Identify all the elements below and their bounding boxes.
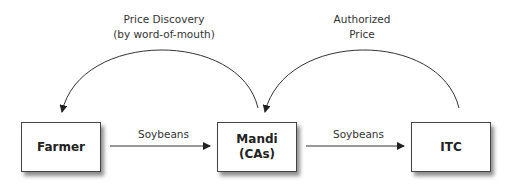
node-itc-label: ITC [440, 140, 461, 155]
edge-label-price-discovery: Price Discovery (by word-of-mouth) [104, 12, 224, 42]
edge-label-farmer-to-mandi: Soybeans [138, 127, 189, 142]
authorized-price-line1: Authorized [322, 12, 402, 27]
node-itc: ITC [411, 122, 491, 172]
node-farmer-label: Farmer [37, 140, 85, 155]
node-mandi: Mandi (CAs) [217, 122, 297, 172]
flow-diagram: Farmer Mandi (CAs) ITC Soybeans Soybeans… [0, 0, 519, 192]
edge-label-mandi-to-itc: Soybeans [333, 127, 384, 142]
price-discovery-line1: Price Discovery [104, 12, 224, 27]
authorized-price-line2: Price [322, 27, 402, 42]
price-discovery-line2: (by word-of-mouth) [104, 27, 224, 42]
node-farmer: Farmer [21, 122, 101, 172]
arc-mandi-to-farmer [62, 50, 258, 112]
node-mandi-label: Mandi [236, 132, 277, 147]
node-mandi-sublabel: (CAs) [239, 147, 275, 162]
arc-itc-to-mandi [265, 50, 459, 112]
edge-label-authorized-price: Authorized Price [322, 12, 402, 42]
